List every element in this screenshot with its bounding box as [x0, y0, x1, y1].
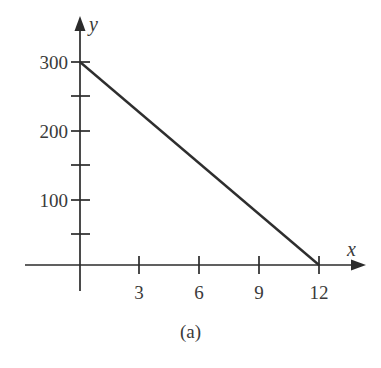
- y-axis-title: y: [89, 14, 98, 34]
- x-tick-label-9: 9: [254, 283, 264, 302]
- y-tick-label-200: 200: [40, 122, 69, 141]
- figure-container: 300 200 100 3 6 9 12 x y (a): [0, 0, 381, 368]
- x-tick-label-12: 12: [310, 283, 329, 302]
- y-tick-label-100: 100: [40, 191, 69, 210]
- x-axis-arrow-icon: [351, 260, 366, 271]
- x-tick-label-3: 3: [134, 283, 144, 302]
- data-series-line: [80, 62, 319, 265]
- x-axis-title: x: [347, 239, 356, 259]
- x-tick-label-6: 6: [194, 283, 204, 302]
- y-tick-label-300: 300: [40, 53, 69, 72]
- y-axis-arrow-icon: [75, 16, 86, 31]
- figure-caption: (a): [0, 322, 381, 341]
